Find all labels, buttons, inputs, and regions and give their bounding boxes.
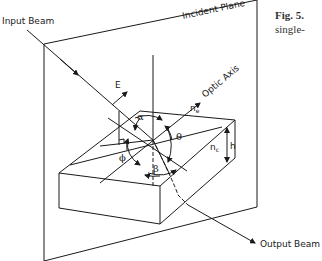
- e-field-label: E: [115, 80, 121, 90]
- theta-label: θ: [176, 131, 182, 142]
- incident-plane-label: Incident Plane: [181, 0, 246, 21]
- output-beam-label: Output Beam: [260, 239, 320, 249]
- input-beam-arrow: [60, 59, 78, 75]
- input-beam-label: Input Beam: [2, 16, 54, 26]
- height-label: h: [230, 141, 236, 151]
- crystal-slab-diagram: Input Beam Incident Plane Optic Axis Out…: [0, 0, 322, 261]
- e-field-arrow: [112, 92, 127, 105]
- beta-label: β: [153, 163, 159, 174]
- optic-axis-line: [100, 103, 200, 183]
- output-beam-line: [188, 205, 255, 243]
- figure-number: Fig. 5.: [275, 9, 304, 21]
- figure-caption: Fig. 5. single-: [275, 8, 305, 36]
- phi-label: ϕ: [119, 152, 126, 163]
- nc-label: nc: [210, 142, 219, 153]
- caption-text: single-: [275, 23, 305, 35]
- input-beam-line: [27, 30, 153, 140]
- incident-plane: [44, 0, 257, 261]
- crystal-slab: [59, 111, 235, 224]
- optic-axis-label: Optic Axis: [200, 63, 241, 100]
- alpha-label: α: [137, 111, 144, 122]
